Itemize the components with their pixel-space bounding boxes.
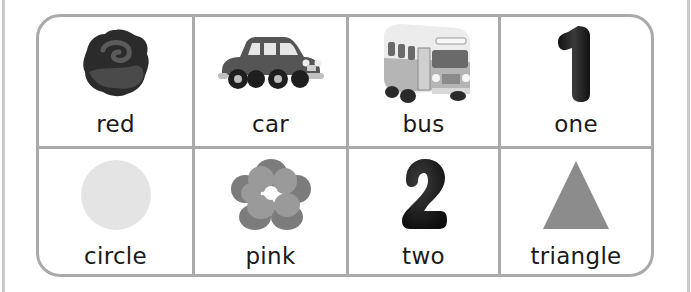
car-icon <box>216 35 326 91</box>
vocabulary-card: red car <box>36 14 654 277</box>
word-label: pink <box>245 245 295 268</box>
triangle-icon <box>541 159 611 231</box>
word-label: triangle <box>530 245 621 268</box>
cell-red: red <box>39 17 195 149</box>
word-label: car <box>252 113 289 136</box>
bus-icon <box>378 22 470 104</box>
word-label: one <box>554 113 598 136</box>
word-label: red <box>96 113 135 136</box>
word-label: circle <box>84 245 147 268</box>
number-two-icon <box>400 157 448 233</box>
cell-pink: pink <box>195 149 349 274</box>
cell-triangle: triangle <box>501 149 651 274</box>
cell-bus: bus <box>349 17 501 149</box>
word-label: two <box>402 245 445 268</box>
cell-car: car <box>195 17 349 149</box>
rose-icon <box>79 26 153 100</box>
circle-icon <box>80 159 152 231</box>
number-one-icon <box>556 24 596 102</box>
cell-two: two <box>349 149 501 274</box>
cell-one: one <box>501 17 651 149</box>
page-edge-right <box>687 0 690 292</box>
flower-icon <box>231 159 311 231</box>
cell-circle: circle <box>39 149 195 274</box>
page-edge-left <box>2 0 5 292</box>
word-label: bus <box>402 113 444 136</box>
